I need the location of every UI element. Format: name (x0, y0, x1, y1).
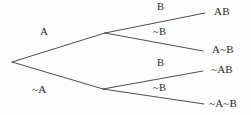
branch-label-a: A (40, 26, 48, 37)
outcome-label-not-ab: ~AB (211, 64, 233, 75)
branch-line-root-to-not-a (12, 62, 103, 89)
branch-line-root-to-a (12, 33, 105, 62)
outcome-label-not-a-not-b: ~A~B (209, 98, 237, 109)
branch-label-b-upper: B (157, 2, 164, 13)
branch-label-b-lower: B (157, 58, 164, 69)
outcome-label-ab: AB (214, 6, 230, 17)
branch-label-not-b-upper: ~B (153, 27, 166, 38)
outcome-label-a-not-b: A~B (212, 44, 234, 55)
branch-label-not-b-lower: ~B (153, 83, 166, 94)
probability-tree-diagram: A ~A B ~B B ~B AB A~B ~AB ~A~B (0, 0, 251, 115)
branch-label-not-a: ~A (32, 84, 46, 95)
